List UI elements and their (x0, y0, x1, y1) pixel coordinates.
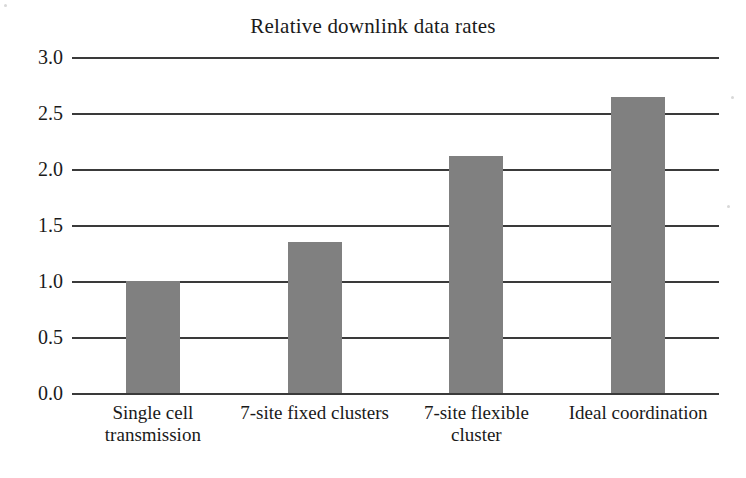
scan-speck (727, 205, 730, 208)
gridline (72, 57, 719, 59)
y-axis-tick-label: 1.0 (38, 270, 63, 293)
category-label: 7-site flexible cluster (401, 402, 551, 447)
plot-area: 0.00.51.01.52.02.53.0 Single cell transm… (72, 57, 719, 393)
bar (126, 281, 180, 393)
category-label: Ideal coordination (563, 402, 713, 424)
gridline (72, 393, 719, 395)
y-axis-tick-label: 2.0 (38, 158, 63, 181)
bar (611, 97, 665, 393)
y-axis-tick-label: 2.5 (38, 102, 63, 125)
scan-speck (731, 96, 734, 99)
bar (449, 156, 503, 393)
category-label: Single cell transmission (78, 402, 228, 447)
y-axis-tick-label: 1.5 (38, 214, 63, 237)
category-label: 7-site fixed clusters (240, 402, 390, 424)
chart-title: Relative downlink data rates (0, 14, 746, 39)
bar (288, 242, 342, 393)
bar-chart-figure: Relative downlink data rates 0.00.51.01.… (0, 0, 746, 478)
scan-speck (4, 4, 7, 7)
y-axis-tick-label: 3.0 (38, 46, 63, 69)
y-axis-tick-label: 0.5 (38, 326, 63, 349)
y-axis-tick-label: 0.0 (38, 382, 63, 405)
